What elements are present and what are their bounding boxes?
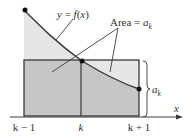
point-right bbox=[137, 87, 142, 92]
x-axis-arrow-icon bbox=[176, 115, 183, 120]
height-brace bbox=[143, 61, 150, 117]
tick-label-k-minus-1: k − 1 bbox=[13, 121, 36, 133]
rectangle-left bbox=[24, 60, 81, 116]
curve-label-leader bbox=[56, 19, 73, 40]
area-label: Area = ak bbox=[110, 16, 153, 31]
tick-label-k: k bbox=[79, 121, 85, 133]
tick-label-k-plus-1: k + 1 bbox=[128, 121, 151, 133]
point-left bbox=[23, 8, 28, 13]
integral-test-diagram: y = f(x) Area = ak ak x k − 1 k k + 1 bbox=[0, 0, 193, 139]
x-axis-label: x bbox=[173, 102, 179, 114]
height-label: ak bbox=[152, 83, 162, 98]
point-mid bbox=[80, 59, 85, 64]
curve-label: y = f(x) bbox=[56, 8, 89, 21]
